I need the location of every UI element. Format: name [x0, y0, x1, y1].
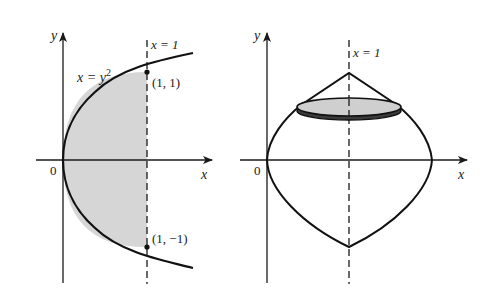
line-label-right: x = 1: [352, 45, 381, 60]
y-axis-label-right: y: [252, 28, 261, 43]
point-1-1: [144, 69, 149, 74]
disk-cross-section: [297, 98, 401, 120]
line-label: x = 1: [150, 37, 179, 52]
point-label-1-neg1: (1, −1): [152, 231, 188, 246]
x-axis-label-right: x: [457, 167, 465, 182]
curve-label: x = y2: [76, 67, 111, 85]
origin-label-right: 0: [254, 163, 261, 178]
y-axis-label: y: [49, 28, 58, 43]
x-axis-label: x: [200, 167, 208, 182]
right-panel: y x 0 x = 1: [240, 28, 467, 284]
origin-label: 0: [50, 163, 57, 178]
figure: y x 0 x = 1 x = y2 (1, 1) (1, −1) y x 0 …: [0, 0, 489, 304]
point-1-neg1: [144, 244, 149, 249]
left-panel: y x 0 x = 1 x = y2 (1, 1) (1, −1): [36, 28, 212, 284]
point-label-1-1: (1, 1): [152, 75, 180, 90]
